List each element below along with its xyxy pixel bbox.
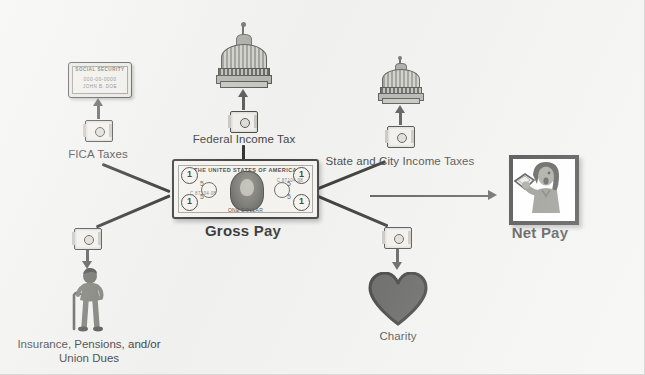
social-security-card-icon: SOCIAL SECURITY 000-00-0000 JOHN B. DOE <box>68 62 132 98</box>
label-insurance-pensions-union-dues: Insurance, Pensions, and/or Union Dues <box>14 337 164 366</box>
person-holding-money-icon <box>509 155 579 225</box>
label-charity: Charity <box>358 330 438 343</box>
money-note-federal-icon <box>230 111 258 133</box>
person-with-cane-icon <box>66 268 112 332</box>
bill-serial-left: C 87104 08 <box>190 191 216 196</box>
money-note-state-city-icon <box>387 126 415 148</box>
bill-corner-top-left: 1 <box>181 167 198 184</box>
money-note-insurance-icon <box>74 228 102 250</box>
diagram-canvas: SOCIAL SECURITY 000-00-0000 JOHN B. DOE … <box>0 0 645 375</box>
label-state-city-income-taxes: State and City Income Taxes <box>325 155 475 168</box>
capitol-dome-federal-icon <box>212 24 274 86</box>
ss-card-number: 000-00-0000 <box>69 76 131 82</box>
bill-small-value-4: 5 <box>287 193 291 200</box>
dollar-bill-icon: THE UNITED STATES OF AMERICA 1 1 1 1 5 5… <box>172 159 319 219</box>
ss-card-title: SOCIAL SECURITY <box>69 67 131 72</box>
bill-portrait <box>230 171 264 211</box>
money-note-charity-icon <box>384 227 412 249</box>
label-gross-pay: Gross Pay <box>193 222 293 239</box>
ss-card-name: JOHN B. DOE <box>69 84 131 89</box>
label-net-pay: Net Pay <box>500 224 580 241</box>
bill-bottom-text: ONE DOLLAR <box>174 207 317 213</box>
label-federal-income-tax: Federal Income Tax <box>188 133 300 146</box>
connector-gross-to-fica <box>102 163 171 193</box>
capitol-dome-state-city-icon <box>374 57 426 105</box>
heart-icon <box>368 272 428 326</box>
bill-small-value-1: 5 <box>200 180 204 187</box>
connector-gross-to-insurance <box>96 194 171 228</box>
connector-gross-to-charity <box>315 194 388 227</box>
bill-serial-right: C 87104 08 <box>277 178 303 183</box>
label-fica-taxes: FICA Taxes <box>48 148 148 161</box>
money-note-fica-icon <box>85 120 113 142</box>
